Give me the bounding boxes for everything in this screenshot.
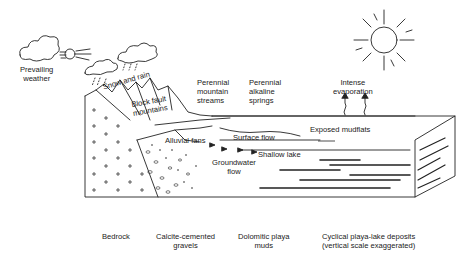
dolomitic-playa-muds-label: Dolomitic playa muds — [238, 232, 290, 250]
perennial-alkaline-springs-label: Perennial alkaline springs — [249, 78, 281, 105]
calcite-cemented-gravels-label: Calcite-cemented gravels — [156, 232, 215, 250]
gravel-dots — [151, 144, 197, 189]
label-line: alkaline — [249, 87, 281, 96]
block-diagram-drawing — [0, 0, 459, 261]
groundwater-arrow-icon — [210, 143, 257, 154]
label-line: Intense — [333, 78, 373, 87]
label-line: Groundwater — [212, 158, 256, 167]
sun-icon — [354, 10, 414, 70]
prevailing-weather-label: Prevailing weather — [20, 65, 53, 83]
label-line: Dolomitic playa — [238, 232, 290, 241]
cloud-icon — [20, 36, 60, 61]
label-line: Prevailing — [20, 65, 53, 74]
cloud-icon — [118, 43, 158, 63]
bedrock-pattern — [92, 108, 144, 192]
label-line: streams — [197, 96, 229, 105]
label-line: Calcite-cemented — [156, 232, 215, 241]
bedrock-label: Bedrock — [102, 232, 130, 241]
label-line: mountain — [197, 87, 229, 96]
cloud-icon — [85, 59, 118, 74]
label-line: weather — [20, 74, 53, 83]
alluvial-fans-label: Alluvial fans — [165, 136, 206, 145]
label-line: Cyclical playa-lake deposits — [322, 232, 415, 241]
label-line: Perennial — [249, 78, 281, 87]
label-line: (vertical scale exaggerated) — [322, 241, 415, 250]
wind-face-icon — [60, 49, 91, 60]
intense-evaporation-label: Intense evaporation — [333, 78, 373, 96]
label-line: springs — [249, 96, 281, 105]
perennial-mountain-streams-label: Perennial mountain streams — [197, 78, 229, 105]
cyclical-deposits-label: Cyclical playa-lake deposits (vertical s… — [322, 232, 415, 250]
evaporation-arrow-icon — [342, 93, 348, 115]
shallow-lake-label: Shallow lake — [258, 150, 301, 159]
evaporation-arrow-icon — [362, 93, 368, 115]
playa-lake-diagram: Prevailing weather Snow and rain Block f… — [0, 0, 459, 261]
gravel-pattern — [146, 151, 190, 194]
exposed-mudflats-label: Exposed mudflats — [310, 125, 370, 134]
label-line: muds — [238, 241, 290, 250]
label-line: evaporation — [333, 87, 373, 96]
label-line: gravels — [156, 241, 215, 250]
label-line: flow — [212, 167, 256, 176]
label-line: Perennial — [197, 78, 229, 87]
groundwater-flow-label: Groundwater flow — [212, 158, 256, 176]
surface-flow-label: Surface flow — [233, 133, 275, 142]
